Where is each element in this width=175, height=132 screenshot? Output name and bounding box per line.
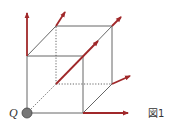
point-q-marker — [22, 108, 32, 118]
arrow-back-top-left-icon — [56, 12, 65, 26]
edge-bottom-right-diag — [83, 84, 112, 113]
point-q-label: Q — [9, 106, 18, 120]
cube-vector-diagram: Q 図1 — [0, 0, 175, 132]
vector-arrows — [27, 12, 130, 113]
arrow-diagonal-icon — [56, 41, 98, 84]
arrow-back-bottom-right-icon — [112, 76, 130, 84]
edge-top-left-diag — [27, 26, 56, 56]
hidden-edge-diagonal-q-to-back — [27, 84, 56, 113]
figure-caption: 図1 — [148, 108, 164, 119]
arrow-back-top-right-icon — [112, 17, 121, 26]
